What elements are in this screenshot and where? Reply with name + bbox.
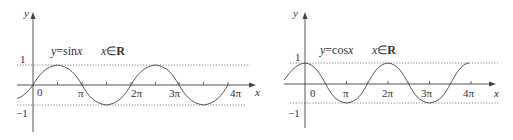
- x-axis-label: x: [493, 87, 499, 99]
- trig-graphs: y x 1 −1 0 π 2π 3π 4π y=sinx x∈R y: [0, 0, 513, 140]
- cos-equation: y=cosx: [319, 43, 354, 57]
- sin-graph: y x 1 −1 0 π 2π 3π 4π y=sinx x∈R: [16, 7, 260, 132]
- x-axis-arrow-icon: [489, 82, 496, 87]
- cos-domain: x∈R: [371, 43, 396, 57]
- y-axis-label: y: [292, 7, 298, 19]
- y-axis-arrow-icon: [303, 12, 308, 19]
- x-tick-4pi: 4π: [463, 87, 475, 99]
- x-axis-label: x: [254, 86, 260, 98]
- x-tick-2pi: 2π: [382, 87, 394, 99]
- x-tick-0: 0: [310, 87, 316, 99]
- x-tick-4pi: 4π: [230, 87, 242, 99]
- x-tick-pi: π: [343, 87, 349, 99]
- sin-domain: x∈R: [100, 44, 125, 58]
- x-tick-pi: π: [78, 87, 84, 99]
- cos-graph: y x 1 −1 0 π 2π 3π 4π y=cosx x∈R: [284, 7, 499, 128]
- sin-equation: y=sinx: [50, 44, 83, 58]
- y-tick-minus1: −1: [16, 107, 28, 119]
- y-tick-minus1: −1: [288, 107, 300, 119]
- x-tick-3pi: 3π: [421, 87, 433, 99]
- y-tick-1: 1: [295, 51, 301, 63]
- y-axis-arrow-icon: [31, 12, 36, 19]
- x-tick-2pi: 2π: [131, 87, 143, 99]
- y-axis-label: y: [23, 7, 29, 19]
- x-tick-3pi: 3π: [169, 87, 181, 99]
- y-tick-1: 1: [20, 53, 26, 65]
- x-tick-0: 0: [37, 86, 43, 98]
